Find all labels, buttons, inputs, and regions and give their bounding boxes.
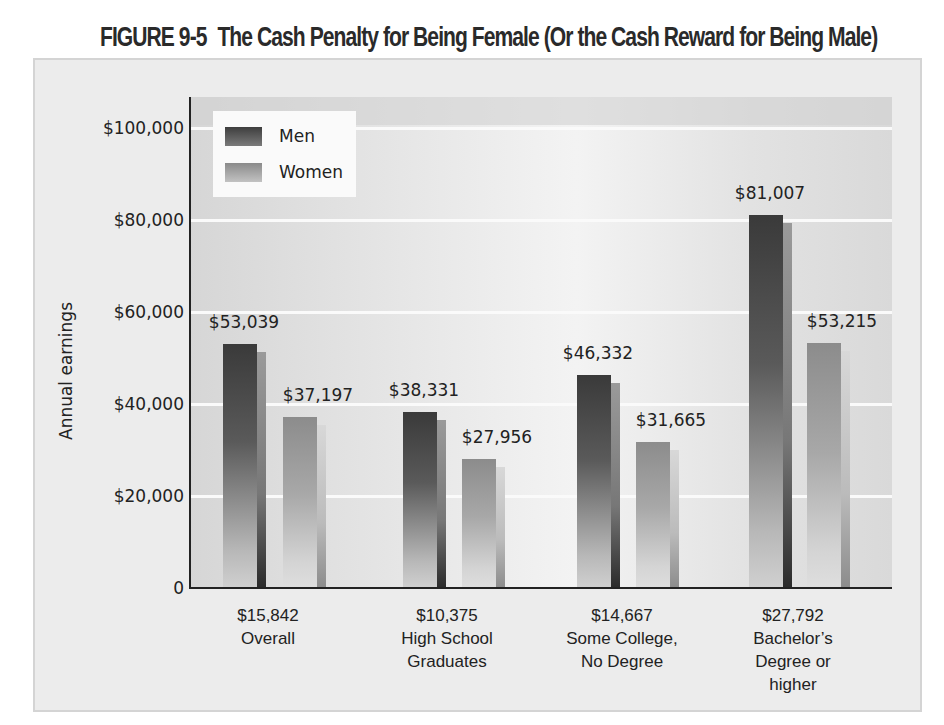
gap-label: $15,842 [188, 604, 348, 627]
category-label: higher [713, 673, 873, 696]
x-axis-line [189, 587, 892, 589]
category-some-college: $14,667 Some College, No Degree [542, 604, 702, 673]
bar-side-men [437, 420, 446, 588]
bar-men [577, 375, 611, 588]
y-tick-0: 0 [173, 578, 184, 598]
bar-women [636, 442, 670, 588]
category-label: Graduates [367, 650, 527, 673]
figure-number: FIGURE 9-5 [100, 22, 206, 52]
category-label: High School [367, 627, 527, 650]
value-label-men: $81,007 [735, 183, 805, 203]
bar-women [807, 343, 841, 588]
legend-label-women: Women [279, 162, 343, 182]
category-high-school: $10,375 High School Graduates [367, 604, 527, 673]
value-label-men: $38,331 [389, 380, 459, 400]
y-tick-60000: $60,000 [114, 302, 184, 322]
y-tick-20000: $20,000 [114, 486, 184, 506]
bar-side-women [670, 450, 679, 588]
category-label: Bachelor’s [713, 627, 873, 650]
y-tick-80000: $80,000 [114, 210, 184, 230]
figure-title: FIGURE 9-5The Cash Penalty for Being Fem… [100, 22, 877, 53]
bar-side-men [257, 352, 266, 588]
value-label-women: $53,215 [807, 311, 877, 331]
y-tick-100000: $100,000 [103, 118, 184, 138]
legend: Men Women [213, 111, 356, 197]
category-bachelors: $27,792 Bachelor’s Degree or higher [713, 604, 873, 716]
bar-side-women [496, 467, 505, 588]
category-label: Some College, [542, 627, 702, 650]
value-label-women: $37,197 [283, 385, 353, 405]
category-label: Degree or [713, 650, 873, 673]
bar-women [283, 417, 317, 588]
value-label-men: $53,039 [209, 312, 279, 332]
bar-women [462, 459, 496, 588]
gridline-80000 [191, 219, 892, 222]
gap-label: $27,792 [713, 604, 873, 627]
y-tick-40000: $40,000 [114, 394, 184, 414]
bar-side-women [317, 425, 326, 588]
figure-caption: The Cash Penalty for Being Female (Or th… [217, 22, 877, 52]
bar-men [749, 215, 783, 588]
legend-swatch-men [225, 127, 262, 146]
bar-men [223, 344, 257, 588]
gap-label: $10,375 [367, 604, 527, 627]
value-label-women: $31,665 [636, 410, 706, 430]
bar-side-men [783, 223, 792, 588]
bar-men [403, 412, 437, 588]
y-axis-label: Annual earnings [56, 302, 76, 440]
category-overall: $15,842 Overall [188, 604, 348, 650]
y-axis-line [189, 97, 191, 589]
legend-swatch-women [225, 163, 262, 182]
value-label-women: $27,956 [462, 427, 532, 447]
category-label: Overall [188, 627, 348, 650]
category-label: No Degree [542, 650, 702, 673]
value-label-men: $46,332 [563, 343, 633, 363]
bar-side-women [841, 351, 850, 588]
gap-label: $14,667 [542, 604, 702, 627]
legend-label-men: Men [279, 126, 315, 146]
bar-side-men [611, 383, 620, 588]
